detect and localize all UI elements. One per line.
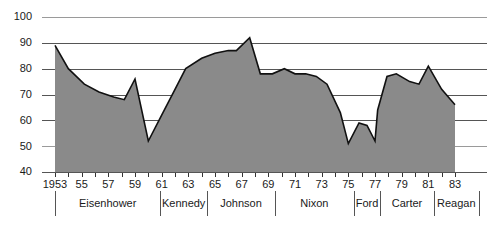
era-label-eisenhower: Eisenhower — [79, 197, 137, 209]
y-tick-label: 90 — [20, 36, 32, 48]
x-tick-label: 73 — [316, 178, 328, 190]
x-tick-label: 71 — [289, 178, 301, 190]
era-label-johnson: Johnson — [220, 197, 262, 209]
y-tick-label: 40 — [20, 165, 32, 177]
x-tick-label: 81 — [422, 178, 434, 190]
era-band-group: EisenhowerKennedyJohnsonNixonFordCarterR… — [56, 191, 480, 216]
x-tick-label: 67 — [236, 178, 248, 190]
chart-container: 405060708090100 195355575961636567697173… — [0, 0, 502, 229]
x-tick-label: 63 — [182, 178, 194, 190]
y-tick-label: 70 — [20, 88, 32, 100]
x-tick-label: 69 — [262, 178, 274, 190]
x-tick-label: 65 — [209, 178, 221, 190]
y-tick-label: 50 — [20, 140, 32, 152]
x-tick-label: 57 — [102, 178, 114, 190]
x-axis-group — [42, 173, 487, 177]
y-axis-labels-group: 405060708090100 — [14, 10, 32, 177]
x-tick-label: 55 — [76, 178, 88, 190]
approval-area-chart: 405060708090100 195355575961636567697173… — [0, 0, 502, 229]
y-tick-label: 100 — [14, 10, 32, 22]
era-label-kennedy: Kennedy — [162, 197, 206, 209]
x-tick-label: 61 — [156, 178, 168, 190]
x-tick-label: 79 — [396, 178, 408, 190]
era-label-nixon: Nixon — [300, 197, 328, 209]
data-area-group — [55, 38, 455, 172]
y-tick-label: 60 — [20, 114, 32, 126]
era-label-ford: Ford — [356, 197, 379, 209]
x-tick-label: 1953 — [43, 178, 67, 190]
x-axis-labels-group: 1953555759616365676971737577798183 — [43, 178, 461, 190]
era-label-reagan: Reagan — [437, 197, 476, 209]
era-label-carter: Carter — [392, 197, 423, 209]
x-tick-label: 83 — [449, 178, 461, 190]
x-tick-label: 75 — [342, 178, 354, 190]
x-tick-label: 59 — [129, 178, 141, 190]
y-tick-label: 80 — [20, 62, 32, 74]
x-tick-label: 77 — [369, 178, 381, 190]
